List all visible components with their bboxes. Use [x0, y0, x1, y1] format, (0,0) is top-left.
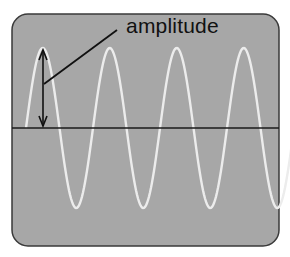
amplitude-label: amplitude: [126, 14, 219, 38]
amplitude-diagram: [0, 0, 290, 257]
display-panel: [12, 14, 279, 246]
